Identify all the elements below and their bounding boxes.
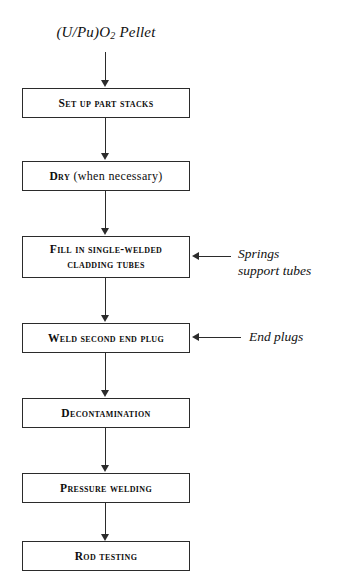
step-label-decontamination: Decontamination — [57, 406, 154, 421]
annotation-springs-support-tubes: Springssupport tubes — [238, 245, 311, 279]
input-material-label: (U/Pu)O2 Pellet — [0, 24, 212, 41]
step-box-pressure-welding[interactable]: Pressure welding — [22, 473, 190, 503]
step-label-fill-line2: cladding tubes — [67, 258, 145, 270]
annotation-springs-line1: Springs — [238, 246, 279, 261]
connector-line-step3-to-step4 — [105, 278, 106, 320]
annotation-arrow-springs — [192, 252, 199, 260]
step-label-dry: Dry (when necessary) — [45, 169, 166, 184]
step-box-fill-in-cladding-tubes[interactable]: Fill in single-weldedcladding tubes — [22, 236, 190, 278]
step-box-weld-second-end-plug[interactable]: Weld second end plug — [22, 323, 190, 353]
annotation-line-end-plugs — [199, 337, 241, 338]
connector-arrow-step5-to-step6 — [101, 465, 109, 472]
connector-arrow-step2-to-step3 — [101, 228, 109, 235]
connector-line-step4-to-step5 — [105, 353, 106, 395]
step-box-decontamination[interactable]: Decontamination — [22, 398, 190, 428]
connector-arrow-step1-to-step2 — [101, 153, 109, 160]
step-label-rod-testing: Rod testing — [71, 549, 142, 564]
step-box-dry[interactable]: Dry (when necessary) — [22, 161, 190, 191]
connector-arrow-step3-to-step4 — [101, 315, 109, 322]
step-label-dry-trailing: (when necessary) — [70, 169, 163, 183]
input-material-suffix: Pellet — [115, 24, 155, 40]
step-box-rod-testing[interactable]: Rod testing — [22, 541, 190, 571]
annotation-springs-line2: support tubes — [238, 263, 311, 278]
connector-line-step5-to-step6 — [105, 428, 106, 470]
step-label-fill-line1: Fill in single-welded — [50, 243, 162, 255]
step-label-pressure-welding: Pressure welding — [56, 481, 156, 496]
connector-line-step1-to-step2 — [105, 118, 106, 158]
connector-arrow-step4-to-step5 — [101, 390, 109, 397]
step-box-set-up-part-stacks[interactable]: Set up part stacks — [22, 88, 190, 118]
connector-arrow-input-to-step1 — [101, 80, 109, 87]
connector-line-step2-to-step3 — [105, 191, 106, 233]
annotation-arrow-end-plugs — [192, 333, 199, 341]
annotation-end-plugs-line1: End plugs — [249, 329, 303, 344]
annotation-line-springs — [199, 256, 231, 257]
process-flowchart: (U/Pu)O2 Pellet Set up part stacks Dry (… — [0, 0, 338, 575]
step-label-dry-leading: Dry — [49, 170, 70, 182]
annotation-end-plugs: End plugs — [249, 328, 303, 345]
step-label-fill-in-cladding-tubes: Fill in single-weldedcladding tubes — [46, 242, 166, 272]
connector-arrow-step6-to-step7 — [101, 534, 109, 541]
step-label-set-up-part-stacks: Set up part stacks — [55, 96, 158, 111]
step-label-weld-second-end-plug: Weld second end plug — [44, 331, 168, 346]
input-material-formula-base: (U/Pu)O — [56, 24, 110, 40]
